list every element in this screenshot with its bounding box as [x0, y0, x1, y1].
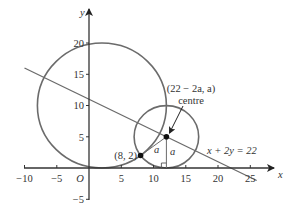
- centre-coordinate-text: (22 − 2a, a): [167, 83, 216, 95]
- x-tick-label-25: 25: [245, 173, 256, 184]
- x-tick-label-10: 10: [148, 173, 159, 184]
- x-tick-label-20: 20: [213, 173, 224, 184]
- centre-coordinate-label: (22 − 2a, a): [167, 83, 216, 95]
- line-equation-label: x + 2y = 22: [206, 145, 257, 156]
- x-tick-label-neg5: −5: [51, 173, 62, 184]
- coordinate-diagram: −10 −5 5 10 15 20 25 −5 5 10 15 20 x y O…: [0, 0, 286, 212]
- point-8-2-label: (8, 2): [114, 150, 137, 162]
- centre-point: [164, 134, 170, 140]
- centre-word-label: centre: [178, 95, 204, 106]
- point-8-2: [138, 153, 144, 159]
- line-x-plus-2y-equals-22: [25, 68, 257, 181]
- y-axis-label: y: [79, 7, 85, 18]
- x-tick-label-15: 15: [181, 173, 192, 184]
- radius-label-a-2: a: [170, 146, 175, 157]
- y-tick-label-neg5: −5: [73, 194, 84, 205]
- x-tick-label-5: 5: [119, 173, 124, 184]
- x-tick-label-neg10: −10: [16, 173, 32, 184]
- y-tick-label-5: 5: [79, 132, 84, 143]
- x-axis-label: x: [277, 169, 283, 180]
- y-tick-label-15: 15: [74, 69, 85, 80]
- radius-label-a-1: a: [154, 144, 159, 155]
- origin-label: O: [76, 173, 84, 184]
- y-tick-label-10: 10: [74, 100, 85, 111]
- y-tick-label-20: 20: [74, 38, 85, 49]
- centre-pointer-arrow: [170, 106, 184, 133]
